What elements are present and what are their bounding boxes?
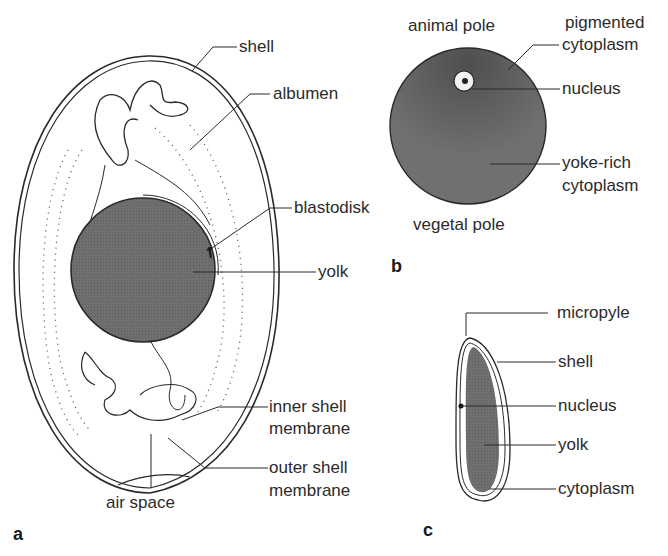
label-air-space: air space <box>106 492 175 513</box>
label-yolk-c: yolk <box>558 434 588 455</box>
panel-letter-b: b <box>391 256 402 277</box>
label-pigmented-cytoplasm-2: cytoplasm <box>562 34 639 55</box>
label-cytoplasm-c: cytoplasm <box>558 478 635 499</box>
label-albumen: albumen <box>273 83 338 104</box>
label-micropyle: micropyle <box>557 302 630 323</box>
panel-letter-c: c <box>423 520 433 541</box>
label-inner-shell-membrane-1: inner shell <box>269 396 347 417</box>
label-shell-c: shell <box>558 351 593 372</box>
amphibian-egg-drawing <box>390 45 560 204</box>
label-animal-pole: animal pole <box>408 15 495 36</box>
label-yoke-rich-1: yoke-rich <box>562 152 631 173</box>
label-outer-shell-membrane-2: membrane <box>269 480 350 501</box>
label-inner-shell-membrane-2: membrane <box>269 418 350 439</box>
label-yoke-rich-2: cytoplasm <box>562 175 639 196</box>
label-vegetal-pole: vegetal pole <box>413 214 505 235</box>
insect-egg-drawing <box>456 313 556 501</box>
label-pigmented-cytoplasm-1: pigmented <box>565 12 644 33</box>
label-blastodisk: blastodisk <box>294 197 370 218</box>
label-yolk-a: yolk <box>318 261 348 282</box>
label-shell-a: shell <box>239 36 274 57</box>
label-nucleus-b: nucleus <box>562 78 621 99</box>
label-nucleus-c: nucleus <box>558 395 617 416</box>
panel-letter-a: a <box>13 524 23 545</box>
label-outer-shell-membrane-1: outer shell <box>269 457 347 478</box>
